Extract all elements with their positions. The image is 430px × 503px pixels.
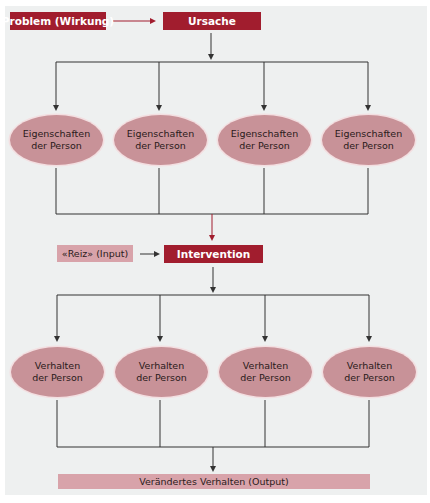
trait-line1: Eigenschaften: [231, 128, 298, 139]
behavior-line2: der Person: [344, 372, 395, 383]
behavior-line1: Verhalten: [139, 360, 184, 371]
behavior-line1: Verhalten: [243, 360, 288, 371]
trait-line2: der Person: [343, 140, 394, 151]
behavior-ellipse-2: Verhaltender Person: [115, 347, 208, 397]
stimulus-box: «Reiz» (Input): [57, 245, 133, 262]
problem-label: Problem (Wirkung): [2, 15, 114, 27]
trait-ellipse-1: Eigenschaftender Person: [10, 115, 103, 165]
intervention-label: Intervention: [177, 248, 250, 260]
behavior-line2: der Person: [136, 372, 187, 383]
problem-box: Problem (Wirkung): [10, 12, 106, 30]
behavior-ellipse-3: Verhaltender Person: [219, 347, 312, 397]
behavior-line2: der Person: [32, 372, 83, 383]
behavior-ellipse-4: Verhaltender Person: [323, 347, 416, 397]
trait-line1: Eigenschaften: [335, 128, 402, 139]
cause-box: Ursache: [163, 12, 261, 30]
behavior-ellipse-1: Verhaltender Person: [11, 347, 104, 397]
trait-line2: der Person: [31, 140, 82, 151]
trait-line2: der Person: [135, 140, 186, 151]
trait-line1: Eigenschaften: [127, 128, 194, 139]
trait-ellipse-4: Eigenschaftender Person: [322, 115, 415, 165]
behavior-line2: der Person: [240, 372, 291, 383]
behavior-line1: Verhalten: [347, 360, 392, 371]
behavior-line1: Verhalten: [35, 360, 80, 371]
intervention-box: Intervention: [164, 245, 263, 263]
trait-ellipse-3: Eigenschaftender Person: [218, 115, 311, 165]
cause-label: Ursache: [188, 15, 236, 27]
stimulus-label: «Reiz» (Input): [62, 248, 128, 259]
trait-line2: der Person: [239, 140, 290, 151]
trait-line1: Eigenschaften: [23, 128, 90, 139]
trait-ellipse-2: Eigenschaftender Person: [114, 115, 207, 165]
output-bar: Verändertes Verhalten (Output): [58, 474, 370, 489]
output-label: Verändertes Verhalten (Output): [139, 476, 289, 487]
